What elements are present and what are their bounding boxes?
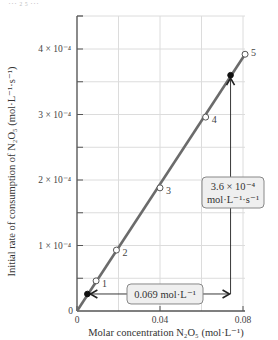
horizontal-annotation-label: 0.069 mol·L⁻¹ bbox=[134, 289, 196, 300]
highlight-point bbox=[228, 72, 234, 78]
data-point-label: 1 bbox=[102, 278, 107, 289]
data-point bbox=[203, 114, 209, 120]
x-axis-title: Molar concentration N₂O₅ (mol·L⁻¹) bbox=[88, 327, 244, 339]
data-point bbox=[93, 278, 99, 284]
gridlines bbox=[77, 16, 245, 311]
y-axis-title: Initial rate of consumption of N₂O₅ (mol… bbox=[6, 66, 18, 276]
y-tick-label: 0 bbox=[68, 306, 73, 316]
data-point bbox=[113, 247, 119, 253]
data-point-label: 3 bbox=[166, 185, 171, 196]
x-tick-label: 0.04 bbox=[152, 315, 169, 325]
y-tick-label: 3 × 10⁻⁴ bbox=[38, 110, 71, 120]
axes bbox=[77, 16, 245, 311]
data-point-label: 4 bbox=[212, 114, 217, 125]
y-tick-label: 2 × 10⁻⁴ bbox=[38, 175, 71, 185]
vertical-annotation-label-line1: 3.6 × 10⁻⁴ bbox=[211, 181, 256, 192]
y-tick-label: 1 × 10⁻⁴ bbox=[38, 241, 71, 251]
highlight-point bbox=[85, 291, 91, 297]
x-tick-label: 0 bbox=[75, 315, 80, 325]
data-point bbox=[242, 51, 248, 57]
annotations: 0.069 mol·L⁻¹3.6 × 10⁻⁴mol·L⁻¹·s⁻¹ bbox=[90, 78, 264, 304]
data-point-label: 5 bbox=[251, 47, 256, 58]
data-point-label: 2 bbox=[122, 247, 127, 258]
vertical-annotation-label-line2: mol·L⁻¹·s⁻¹ bbox=[207, 194, 259, 205]
y-tick-label: 4 × 10⁻⁴ bbox=[38, 44, 71, 54]
data-point bbox=[157, 185, 163, 191]
chart: 01 × 10⁻⁴2 × 10⁻⁴3 × 10⁻⁴4 × 10⁻⁴00.040.… bbox=[0, 0, 278, 340]
x-tick-label: 0.08 bbox=[235, 315, 252, 325]
